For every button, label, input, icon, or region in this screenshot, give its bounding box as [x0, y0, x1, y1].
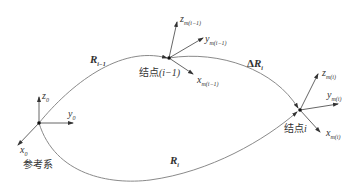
vector-delta-r-label: ΔRi	[247, 58, 263, 71]
vector-r-curr-curve	[39, 112, 297, 181]
reference-origin-dot	[37, 121, 41, 125]
ref-y-axis-label: y0	[68, 109, 75, 121]
node-curr-label: 结点i	[284, 124, 307, 134]
vector-delta-r-curve	[169, 56, 298, 108]
vector-r-curr-label: Ri	[170, 155, 179, 168]
node-prev-dot	[167, 56, 171, 60]
node-prev-y-axis-label: ym(i−1)	[205, 34, 227, 46]
node-curr-z-axis-label: zm(i)	[322, 68, 336, 80]
ref-x-axis-label: x0	[20, 145, 27, 157]
node-prev-z-axis-label: zm(i−1)	[180, 14, 201, 26]
vector-r-prev-label: Ri−1	[90, 54, 106, 67]
node-prev-x-axis-label: xm(i−1)	[197, 75, 219, 87]
reference-frame-label: 参考系	[23, 160, 53, 170]
node-prev-label: 结点(i−1)	[139, 68, 180, 78]
node-curr-x-axis-label: xm(i)	[326, 128, 340, 140]
ref-z-axis-label: z0	[42, 91, 49, 103]
node-curr-y-axis-label: ym(i)	[327, 90, 341, 102]
node-curr-dot	[298, 108, 302, 112]
